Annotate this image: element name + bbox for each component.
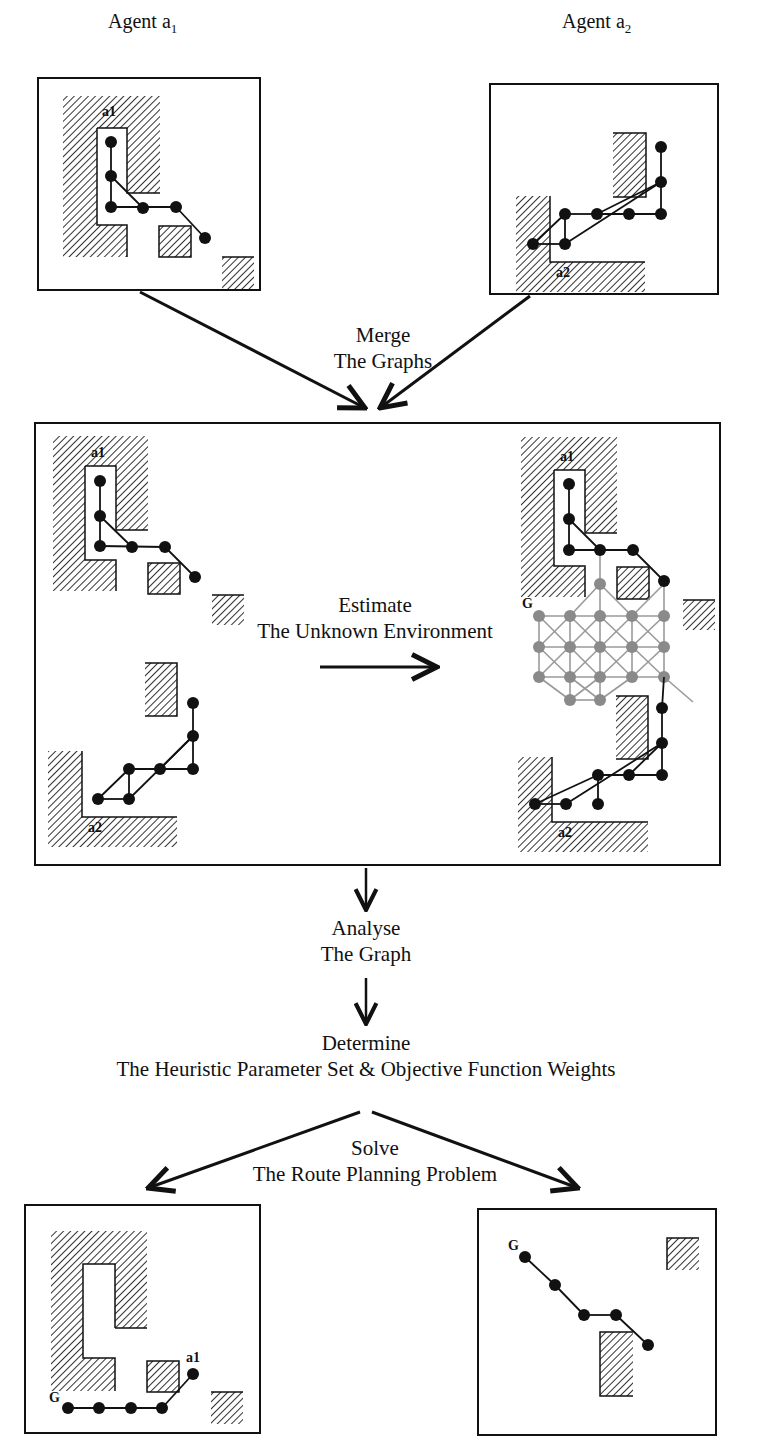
step-determine: Determine The Heuristic Parameter Set & … — [26, 1030, 706, 1082]
step-solve: Solve The Route Planning Problem — [210, 1135, 540, 1187]
map-label-a2: a2 — [88, 820, 102, 836]
map-label-a1: a1 — [186, 1350, 200, 1366]
obstacle-square — [159, 226, 191, 257]
step-analyse-subtitle: The Graph — [266, 941, 466, 967]
step-solve-title: Solve — [210, 1135, 540, 1161]
map-label-goal: G — [522, 596, 533, 612]
map-label-goal: G — [49, 1390, 60, 1406]
step-estimate-subtitle: The Unknown Environment — [230, 618, 520, 644]
step-analyse: Analyse The Graph — [266, 915, 466, 967]
obstacle-rect — [613, 133, 646, 197]
step-determine-subtitle: The Heuristic Parameter Set & Objective … — [26, 1056, 706, 1082]
map-label-a1: a1 — [102, 104, 116, 120]
map-label-a1: a1 — [560, 449, 574, 465]
agent-a2-map — [490, 84, 718, 294]
step-merge: Merge The Graphs — [283, 322, 483, 374]
agent-a2-title: Agent a2 — [562, 10, 631, 37]
agent-a1-map — [38, 78, 260, 290]
agent-a2-title-text: Agent a — [562, 10, 625, 32]
step-estimate-title: Estimate — [230, 592, 520, 618]
agent-a1-subscript: 1 — [171, 21, 178, 36]
map-label-a2: a2 — [556, 265, 570, 281]
solution-a1-map — [25, 1205, 260, 1433]
step-merge-subtitle: The Graphs — [283, 348, 483, 374]
step-merge-title: Merge — [283, 322, 483, 348]
merged-graphs-box — [35, 423, 720, 865]
agent-a1-title-text: Agent a — [108, 10, 171, 32]
map-label-goal: G — [508, 1238, 519, 1254]
workflow-diagram — [0, 0, 772, 1440]
agent-a1-title: Agent a1 — [108, 10, 177, 37]
agent-a2-subscript: 2 — [625, 21, 632, 36]
step-estimate: Estimate The Unknown Environment — [230, 592, 520, 644]
step-determine-title: Determine — [26, 1030, 706, 1056]
obstacle-square — [222, 257, 254, 289]
step-analyse-title: Analyse — [266, 915, 466, 941]
map-label-a1: a1 — [91, 445, 105, 461]
map-label-a2: a2 — [558, 825, 572, 841]
step-solve-subtitle: The Route Planning Problem — [210, 1161, 540, 1187]
